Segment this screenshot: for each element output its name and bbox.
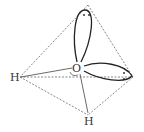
hydrogen-left-label: H <box>10 71 20 84</box>
lone-pair-dots <box>83 14 125 80</box>
lone-pair-lobe-right <box>84 63 132 80</box>
oxygen-label: O <box>72 62 81 75</box>
hydrogen-bottom-label: H <box>84 115 94 128</box>
lone-pair-lobe-top <box>74 10 91 62</box>
water-tetrahedron-diagram: O H H <box>0 0 144 132</box>
